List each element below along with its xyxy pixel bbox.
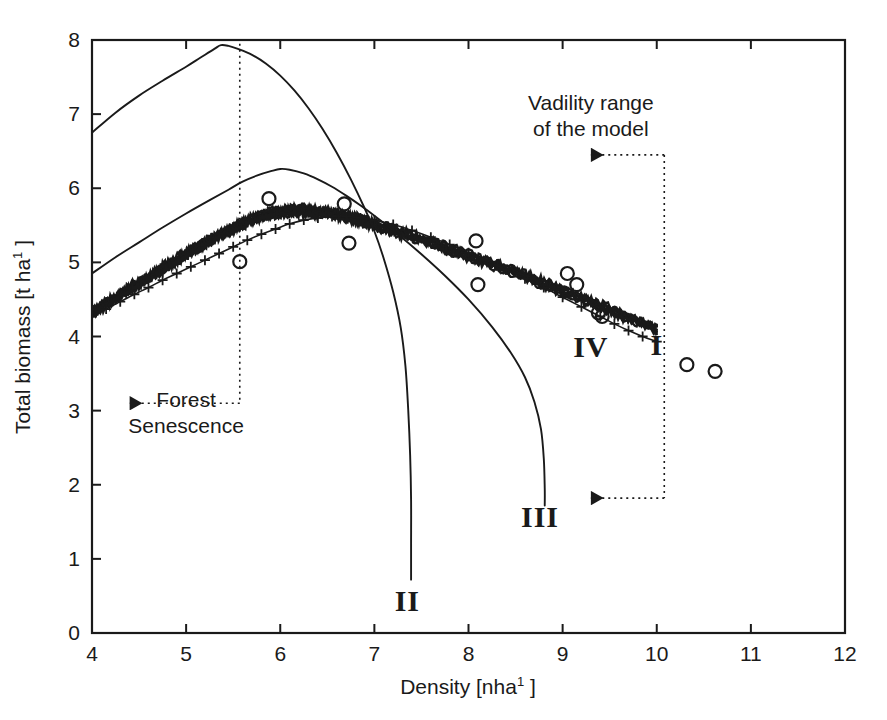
plus-marker (271, 224, 281, 234)
y-tick-label: 7 (68, 102, 80, 125)
scatter-point (262, 192, 275, 205)
y-tick-label: 6 (68, 176, 80, 199)
biomass-density-plot: 456789101112 012345678 IIIIIIIV ForestSe… (0, 0, 887, 720)
x-tick-label: 5 (180, 642, 192, 665)
annotation-line: Senescence (128, 414, 244, 437)
curve-label-IV: IV (573, 330, 608, 363)
x-tick-label: 4 (86, 642, 98, 665)
plus-marker (285, 219, 295, 229)
scatter-point (471, 278, 484, 291)
svg-text:Density [nha1 ]: Density [nha1 ] (400, 674, 536, 698)
y-tick-label: 2 (68, 473, 80, 496)
plus-marker (214, 248, 224, 258)
scatter-point (342, 237, 355, 250)
y-tick-label: 3 (68, 399, 80, 422)
y-tick-label: 0 (68, 621, 80, 644)
x-tick-label: 12 (833, 642, 856, 665)
annotation-texts-group: ForestSenescenceVadility rangeof the mod… (128, 91, 653, 437)
y-axis-title: Total biomass [t ha1 ] (10, 240, 34, 434)
plus-marker (624, 326, 634, 336)
y-tick-label: 8 (68, 28, 80, 51)
x-axis-tick-labels: 456789101112 (86, 642, 857, 665)
x-tick-label: 7 (369, 642, 381, 665)
plus-marker (228, 242, 238, 252)
annotation-line: Forest (156, 388, 216, 411)
curve-labels-group: IIIIIIIV (395, 328, 663, 617)
plus-marker (242, 235, 252, 245)
plus-marker (200, 255, 210, 265)
axes-frame (92, 40, 845, 633)
x-tick-label: 10 (645, 642, 668, 665)
annotation-line: of the model (533, 117, 649, 140)
x-axis-title: Density [nha1 ] (400, 674, 536, 698)
scatter-point (570, 278, 583, 291)
x-tick-label: 9 (557, 642, 569, 665)
scatter-point (680, 358, 693, 371)
svg-text:Total biomass [t ha1 ]: Total biomass [t ha1 ] (10, 240, 34, 434)
plus-marker (638, 332, 648, 342)
scatter-point (338, 197, 351, 210)
series-line (92, 45, 411, 580)
y-axis-tick-labels: 012345678 (68, 28, 80, 644)
scatter-point (561, 267, 574, 280)
annotation-line: Vadility range (528, 91, 654, 114)
scatter-point (709, 365, 722, 378)
plus-marker (186, 262, 196, 272)
y-tick-label: 5 (68, 250, 80, 273)
plus-marker (256, 229, 266, 239)
series-II (92, 45, 411, 580)
annotation-text-forest-senescence: ForestSenescence (128, 388, 244, 437)
y-axis-ticks (92, 114, 101, 559)
scatter-point (470, 234, 483, 247)
curve-label-I: I (650, 328, 663, 361)
annotation-text-validity-range: Vadility rangeof the model (528, 91, 654, 140)
curve-label-III: III (521, 500, 559, 533)
y-tick-label: 1 (68, 547, 80, 570)
chart-figure: 456789101112 012345678 IIIIIIIV ForestSe… (0, 0, 887, 720)
x-tick-label: 8 (463, 642, 475, 665)
x-axis-ticks (186, 40, 751, 633)
x-tick-label: 6 (274, 642, 286, 665)
curve-label-II: II (395, 584, 420, 617)
y-tick-label: 4 (68, 325, 80, 348)
x-tick-label: 11 (740, 642, 762, 665)
